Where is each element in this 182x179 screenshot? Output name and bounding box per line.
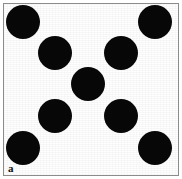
disc-bottom-left (6, 131, 40, 165)
panel-label: a (8, 163, 14, 174)
disc-lower-left (38, 99, 72, 133)
disc-layer (3, 3, 179, 176)
disc-lower-right (104, 99, 138, 133)
disc-top-right (138, 5, 172, 39)
figure-panel: a (0, 0, 182, 179)
panel-frame (3, 3, 179, 176)
disc-top-left (6, 5, 40, 39)
disc-bottom-right (138, 131, 172, 165)
disc-upper-left (38, 36, 72, 70)
disc-center (71, 67, 105, 101)
disc-upper-right (104, 36, 138, 70)
